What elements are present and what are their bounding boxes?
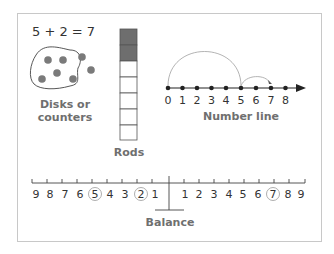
svg-text:8: 8 (47, 188, 54, 201)
svg-text:7: 7 (62, 188, 69, 201)
disks-label: Disks or counters (30, 98, 100, 124)
balance-label: Balance (140, 216, 200, 229)
svg-text:1: 1 (179, 94, 186, 107)
number-line-label: Number line (196, 110, 286, 123)
svg-text:9: 9 (33, 188, 40, 201)
disks-label-line1: Disks or (30, 98, 100, 111)
rod (120, 29, 137, 140)
svg-text:1: 1 (182, 188, 189, 201)
svg-text:7: 7 (268, 94, 275, 107)
svg-text:1: 1 (152, 188, 159, 201)
svg-text:4: 4 (226, 188, 233, 201)
svg-text:8: 8 (282, 94, 289, 107)
svg-text:6: 6 (77, 188, 84, 201)
svg-text:4: 4 (223, 94, 230, 107)
svg-text:2: 2 (138, 188, 145, 201)
svg-text:0: 0 (165, 94, 172, 107)
svg-text:6: 6 (255, 188, 262, 201)
disks-label-line2: counters (30, 111, 100, 124)
svg-text:3: 3 (122, 188, 129, 201)
svg-text:5: 5 (240, 188, 247, 201)
balance (32, 176, 305, 210)
svg-text:5: 5 (92, 188, 99, 201)
svg-text:3: 3 (208, 94, 215, 107)
svg-text:2: 2 (194, 94, 201, 107)
svg-text:6: 6 (253, 94, 260, 107)
svg-text:7: 7 (270, 188, 277, 201)
number-line: 012 345 678 (165, 52, 307, 108)
rods-label: Rods (110, 146, 148, 159)
svg-text:2: 2 (196, 188, 203, 201)
svg-text:3: 3 (211, 188, 218, 201)
svg-text:9: 9 (298, 188, 305, 201)
svg-text:4: 4 (107, 188, 114, 201)
counters (38, 53, 95, 83)
svg-text:5: 5 (238, 94, 245, 107)
balance-labels: 9876 54321 1234 56789 (33, 188, 305, 201)
svg-text:8: 8 (285, 188, 292, 201)
